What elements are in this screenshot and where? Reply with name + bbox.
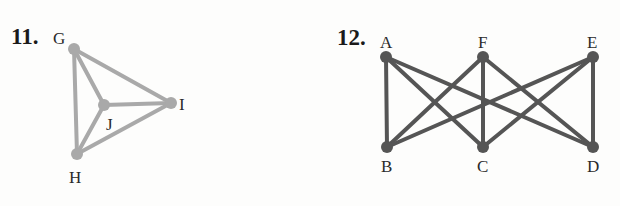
graph-11-edges: [74, 49, 171, 154]
node-label-g: G: [53, 29, 65, 48]
node-label-e: E: [587, 33, 597, 52]
node-label-i: I: [179, 95, 185, 114]
node-label-c: C: [477, 157, 488, 176]
graph-figures: 11. G J I H 12.: [0, 0, 620, 206]
edge-j-i: [104, 103, 171, 105]
node-g: [68, 43, 80, 55]
node-label-b: B: [381, 157, 392, 176]
node-j: [98, 99, 110, 111]
edge-a-b: [386, 57, 387, 147]
node-label-h: H: [69, 168, 81, 187]
node-h: [71, 148, 83, 160]
node-label-f: F: [478, 33, 487, 52]
node-b: [381, 141, 393, 153]
edge-g-h: [74, 49, 77, 154]
problem-12: 12. A F E B C D: [337, 25, 599, 176]
node-label-a: A: [380, 33, 393, 52]
node-a: [380, 51, 392, 63]
node-label-j: J: [106, 115, 113, 134]
problem-number: 11.: [11, 24, 38, 49]
problem-number: 12.: [337, 25, 366, 50]
node-e: [587, 51, 599, 63]
node-d: [587, 141, 599, 153]
node-label-d: D: [587, 157, 599, 176]
graph-12-edges: [386, 57, 593, 147]
node-f: [477, 51, 489, 63]
node-i: [165, 97, 177, 109]
problem-11: 11. G J I H: [11, 24, 185, 187]
node-c: [477, 141, 489, 153]
